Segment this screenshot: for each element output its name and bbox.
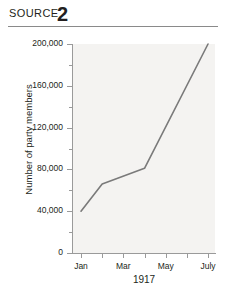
party-membership-line <box>81 44 208 211</box>
series-layer <box>0 30 225 298</box>
line-chart: Number of party members 200,000 160,000 … <box>0 30 225 298</box>
source-header: SOURCE 2 <box>0 0 225 30</box>
source-number: 2 <box>57 3 68 25</box>
header-divider <box>8 26 218 27</box>
source-label: SOURCE <box>9 7 58 19</box>
